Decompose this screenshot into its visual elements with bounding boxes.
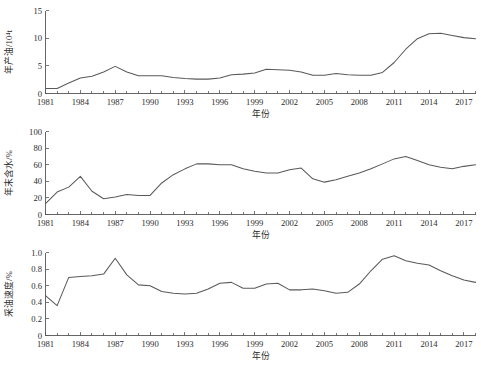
x-tick-labels: 1981198419871990199319961999200220052008… [37,339,473,349]
x-tick-label: 1987 [107,339,125,349]
x-tick-labels: 1981198419871990199319961999200220052008… [37,218,473,228]
x-tick-label: 2011 [386,339,403,349]
x-tick-label: 2005 [316,218,333,228]
y-tick-label: 80 [33,143,42,153]
y-tick-label: 20 [33,193,42,203]
y-tick-label: 60 [33,160,42,170]
y-tick-label: 0 [38,331,42,341]
chart-panel-1: 1981198419871990199319961999200220052008… [0,121,481,241]
data-series-line [46,156,476,203]
data-series-line [46,256,476,306]
x-tick-label: 1987 [107,218,125,228]
x-tick-label: 2014 [420,339,438,349]
data-series-line [46,33,476,88]
y-tick-label: 0 [38,89,42,99]
x-axis-title: 年份 [252,350,270,361]
x-axis-title: 年份 [252,108,270,119]
x-tick-label: 2014 [420,97,438,107]
x-tick-label: 2005 [316,339,333,349]
y-tick-label: 0 [38,210,42,220]
y-tick-marks: 020406080100 [29,127,49,220]
y-tick-label: 15 [33,6,42,16]
y-tick-label: 0.4 [31,297,42,307]
x-tick-label: 2011 [386,97,403,107]
multi-panel-line-chart-figure: 1981198419871990199319961999200220052008… [0,0,481,365]
y-tick-label: 5 [38,61,42,71]
x-tick-label: 2008 [351,339,368,349]
x-axis-title: 年份 [252,229,270,240]
y-tick-label: 100 [29,127,42,137]
y-tick-marks: 00.20.40.60.81.0 [31,248,49,341]
x-tick-label: 1993 [176,97,193,107]
x-tick-label: 1990 [142,339,159,349]
chart-panel-2: 1981198419871990199319961999200220052008… [0,242,481,362]
chart-panel-0: 1981198419871990199319961999200220052008… [0,0,481,120]
x-tick-label: 1996 [211,97,229,107]
x-tick-label: 1999 [246,218,263,228]
x-tick-labels: 1981198419871990199319961999200220052008… [37,97,473,107]
x-tick-label: 1990 [142,218,159,228]
x-tick-label: 2014 [420,218,438,228]
x-tick-label: 2002 [281,218,298,228]
x-tick-label: 1990 [142,97,159,107]
y-tick-label: 0.6 [31,281,42,291]
x-tick-label: 2017 [455,339,473,349]
y-tick-label: 0.2 [31,314,42,324]
x-tick-label: 1996 [211,218,229,228]
x-tick-label: 1984 [72,218,90,228]
x-tick-label: 1993 [176,339,193,349]
x-tick-label: 2017 [455,97,473,107]
y-axis-title: 年末含水/% [3,149,14,195]
x-tick-label: 1984 [72,339,90,349]
x-tick-label: 1984 [72,97,90,107]
x-tick-label: 2011 [386,218,403,228]
x-tick-label: 2002 [281,97,298,107]
y-tick-label: 1.0 [31,248,42,258]
x-tick-label: 2008 [351,218,368,228]
y-tick-marks: 051015 [33,6,49,99]
x-tick-label: 1993 [176,218,193,228]
axes-group [46,132,476,215]
x-tick-label: 2005 [316,97,333,107]
y-tick-label: 40 [33,176,42,186]
y-axis-title: 采油速度/% [3,270,14,316]
x-tick-marks [46,332,476,336]
axes-group [46,11,476,94]
x-tick-marks [46,211,476,215]
y-tick-label: 10 [33,33,42,43]
x-tick-label: 2008 [351,97,368,107]
x-tick-label: 1999 [246,339,263,349]
x-tick-marks [46,90,476,94]
x-tick-label: 1999 [246,97,263,107]
y-axis-title: 年产油/10⁴t [3,30,14,74]
y-tick-label: 0.8 [31,264,42,274]
x-tick-label: 1996 [211,339,229,349]
x-tick-label: 1987 [107,97,125,107]
x-tick-label: 2002 [281,339,298,349]
x-tick-label: 2017 [455,218,473,228]
